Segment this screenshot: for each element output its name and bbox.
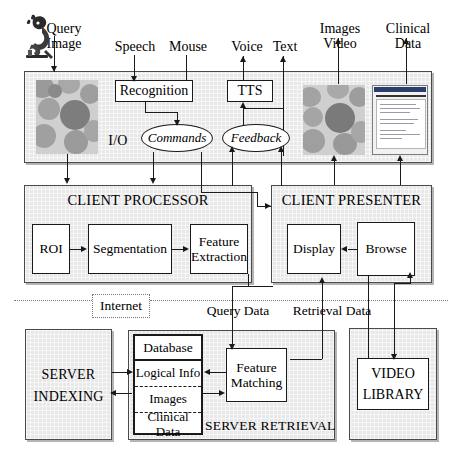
internet-divider-right: [150, 300, 448, 301]
label-clinical-line: Clinical: [378, 22, 438, 37]
internet-box: Internet: [92, 294, 150, 318]
connector-images-to-matching: [203, 393, 219, 394]
arrowhead-result-image-in: [331, 155, 337, 161]
connector-feedback-to-tts: [243, 108, 244, 126]
retrieval-data-label: Retrieval Data: [282, 304, 382, 318]
feature-matching-box[interactable]: Feature Matching: [226, 348, 287, 402]
arrowhead-feedback-left-in: [229, 146, 235, 152]
database-row-clinical-data[interactable]: Clinical Data: [135, 413, 201, 437]
connector-database-to-indexing: [114, 393, 132, 394]
arrowhead-indexing-in: [110, 390, 116, 396]
connector-presenter-to-feedback-right: [281, 152, 282, 186]
recognition-box[interactable]: Recognition: [115, 80, 193, 102]
arrowhead-speech-in: [131, 76, 137, 82]
label-speech: Speech: [108, 40, 162, 55]
video-library-box[interactable]: VIDEO LIBRARY: [357, 358, 429, 410]
label-images-line: Images: [311, 22, 369, 37]
arrowhead-feature-matching-in: [229, 344, 235, 350]
arrowhead-query-image-in: [51, 66, 57, 72]
arrowhead-processor-commands-in: [150, 178, 156, 184]
connector-segmentation-to-feature-extraction: [172, 249, 183, 250]
arrowhead-presenter-retrieval-in: [319, 277, 325, 283]
commands-ellipse[interactable]: Commands: [141, 124, 213, 152]
connector-feature-extraction-down: [248, 274, 249, 286]
arrowhead-clinical-doc-in: [397, 155, 403, 161]
arrowhead-presenter-video-up: [407, 272, 413, 278]
arrowhead-images-video-out: [335, 38, 341, 44]
connector-presenter-video-top: [394, 283, 410, 284]
connector-commands-presenter-v2: [257, 192, 258, 206]
connector-recognition-bottom: [145, 102, 146, 112]
label-mouse-text: Mouse: [163, 40, 213, 55]
connector-io-to-processor-image: [67, 154, 68, 180]
arrowhead-commands-in: [174, 120, 180, 126]
query-image-thumbnail: [36, 80, 98, 154]
server-indexing-title-line2: INDEXING: [25, 386, 112, 408]
segmentation-box[interactable]: Segmentation: [88, 224, 172, 274]
arrowhead-matching-images-in: [219, 390, 225, 396]
arrowhead-text-out: [280, 56, 286, 62]
server-indexing-title-line1: SERVER: [25, 364, 112, 386]
label-clinical-data-top: Clinical Data: [378, 22, 438, 51]
database-stack: Database Logical Info Images Clinical Da…: [133, 334, 203, 435]
arrowhead-presenter-commands-in: [265, 203, 271, 209]
connector-tts-to-text: [243, 108, 283, 109]
connector-commands-to-processor: [153, 152, 154, 180]
feature-matching-line1: Feature: [236, 360, 276, 375]
browse-box[interactable]: Browse: [357, 222, 415, 276]
label-voice: Voice: [226, 40, 268, 55]
arrowhead-display-in: [341, 246, 347, 252]
label-mouse: Mouse: [163, 40, 213, 55]
connector-commands-to-presenter: [201, 152, 202, 192]
io-panel-label: I/O: [104, 133, 132, 149]
label-voice-text: Voice: [226, 40, 268, 55]
tts-box[interactable]: TTS: [227, 80, 273, 102]
arrowhead-logical-info-in: [204, 369, 210, 375]
connector-browse-to-display: [348, 249, 357, 250]
label-text: Text: [268, 40, 302, 55]
feature-matching-line2: Matching: [231, 375, 283, 390]
feature-extraction-line2: Extraction: [191, 249, 247, 264]
connector-video-library-in: [394, 283, 395, 357]
roi-box[interactable]: ROI: [32, 224, 70, 274]
query-data-label: Query Data: [196, 304, 280, 318]
arrowhead-feedback-right-in: [278, 146, 284, 152]
video-library-line1: VIDEO: [371, 363, 415, 384]
arrowhead-video-library-in: [391, 354, 397, 360]
arrowhead-feature-extraction-in: [183, 246, 189, 252]
arrowhead-segmentation-in: [81, 246, 87, 252]
client-presenter-title: CLIENT PRESENTER: [271, 192, 432, 209]
display-box[interactable]: Display: [287, 224, 341, 274]
connector-presenter-to-result-image: [334, 161, 335, 185]
connector-query-data-join: [232, 286, 273, 287]
arrowhead-database-in: [127, 369, 133, 375]
label-images-video: Images Video: [311, 22, 369, 51]
connector-matching-to-logical-info: [210, 372, 226, 373]
architecture-diagram: Query Image Speech Mouse Voice Text Imag…: [0, 0, 460, 464]
arrowhead-clinical-data-out: [403, 38, 409, 44]
client-processor-title: CLIENT PROCESSOR: [24, 192, 252, 209]
feature-extraction-box[interactable]: Feature Extraction: [190, 224, 248, 274]
connector-presenter-to-feedback-left: [232, 152, 233, 186]
connector-retrieval-data-join: [290, 359, 322, 360]
label-speech-text: Speech: [108, 40, 162, 55]
connector-presenter-to-video-library: [368, 276, 369, 363]
server-indexing-title: SERVER INDEXING: [25, 364, 112, 407]
microscope-user-icon: [18, 14, 64, 64]
database-header: Database: [135, 336, 201, 361]
internet-divider-left: [14, 300, 94, 301]
label-text-text: Text: [268, 40, 302, 55]
connector-recognition-to-commands: [145, 112, 177, 113]
connector-retrieval-data: [322, 283, 323, 359]
video-library-line2: LIBRARY: [363, 384, 424, 405]
arrowhead-voice-out: [240, 56, 246, 62]
feature-extraction-line1: Feature: [199, 234, 239, 249]
internet-label: Internet: [100, 298, 142, 314]
connector-presenter-to-clinical-doc: [400, 161, 401, 185]
server-retrieval-title: SERVER RETRIEVAL: [205, 418, 331, 434]
result-image-thumbnail: [303, 85, 365, 155]
clinical-document-thumbnail: [372, 85, 428, 155]
database-row-images[interactable]: Images: [135, 387, 201, 412]
database-row-logical-info[interactable]: Logical Info: [135, 361, 201, 386]
arrowhead-processor-image-in: [64, 178, 70, 184]
